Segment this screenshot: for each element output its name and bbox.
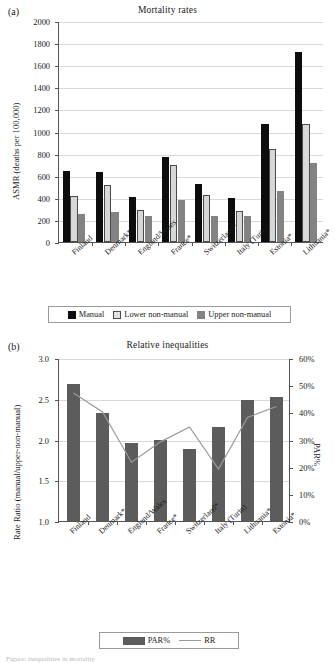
- legend-label-par-percent: PAR%: [148, 636, 171, 645]
- panel-b-y-tick-right: [289, 441, 293, 442]
- legend-swatch-rr-icon: [179, 640, 201, 641]
- panel-b-bar-par-percent: [125, 443, 139, 521]
- legend-label-lower-non-manual: Lower non-manual: [124, 310, 188, 319]
- panel-b-y-tick-right: [289, 413, 293, 414]
- panel-a-x-tick: [291, 242, 292, 246]
- panel-a-bar-lower: [269, 149, 276, 242]
- panel-b-y-tick-label: 1.0: [21, 518, 49, 527]
- panel-a-y-tick: [55, 44, 59, 45]
- panel-a-x-tick: [192, 242, 193, 246]
- panel-a-bar-lower: [302, 124, 309, 242]
- legend-swatch-par-percent-icon: [123, 637, 145, 645]
- panel-b-y-tick-label-right: 60%: [299, 355, 329, 364]
- panel-a-y-tick: [55, 66, 59, 67]
- panel-a-y-tick: [55, 110, 59, 111]
- panel-a-y-tick-label: 600: [16, 172, 50, 181]
- panel-a-bar-lower: [104, 185, 111, 242]
- panel-a-title: Mortality rates: [0, 5, 335, 15]
- panel-b-relative-inequalities: (b) Relative inequalities Rate Ratio (ma…: [0, 335, 335, 663]
- panel-a-y-tick: [55, 155, 59, 156]
- panel-b-y-tick-label: 2.0: [21, 436, 49, 445]
- panel-b-y-tick-label: 1.5: [21, 477, 49, 486]
- legend-swatch-upper-non-manual-icon: [197, 311, 205, 319]
- panel-a-gridline: [59, 88, 323, 89]
- panel-a-bar-lower: [70, 196, 77, 242]
- legend-swatch-manual-icon: [68, 311, 76, 319]
- legend-item-upper-non-manual: Upper non-manual: [197, 310, 271, 319]
- panel-a-y-tick: [55, 88, 59, 89]
- panel-b-y-tick-right: [289, 495, 293, 496]
- panel-b-y-tick: [55, 441, 59, 442]
- panel-b-gridline: [59, 359, 289, 360]
- panel-a-y-tick-label: 1600: [16, 62, 50, 71]
- panel-a-bar-manual: [96, 172, 103, 242]
- panel-a-gridline: [59, 110, 323, 111]
- panel-a-y-tick: [55, 177, 59, 178]
- panel-a-gridline: [59, 22, 323, 23]
- figure-caption: Figure: inequalities in mortality: [6, 655, 95, 663]
- panel-b-y-tick-right: [289, 386, 293, 387]
- panel-b-y-tick: [55, 400, 59, 401]
- panel-a-y-tick-label: 2000: [16, 18, 50, 27]
- panel-a-y-tick-label: 0: [16, 239, 50, 248]
- panel-b-y-tick: [55, 522, 59, 523]
- legend-item-rr: RR: [179, 636, 215, 645]
- panel-a-bar-upper: [277, 191, 284, 242]
- panel-a-y-tick-label: 1400: [16, 84, 50, 93]
- panel-a-gridline: [59, 66, 323, 67]
- legend-item-manual: Manual: [68, 310, 105, 319]
- panel-a-y-tick: [55, 243, 59, 244]
- panel-a-bar-manual: [63, 171, 70, 242]
- figure-container: (a) Mortality rates ASMR (deaths per 100…: [0, 0, 335, 663]
- panel-a-gridline: [59, 44, 323, 45]
- legend-item-lower-non-manual: Lower non-manual: [113, 310, 188, 319]
- panel-b-y-tick-right: [289, 468, 293, 469]
- panel-a-x-tick: [125, 242, 126, 246]
- panel-b-bar-par-percent: [96, 413, 110, 521]
- panel-a-mortality-rates: (a) Mortality rates ASMR (deaths per 100…: [0, 0, 335, 335]
- legend-label-manual: Manual: [79, 310, 105, 319]
- panel-b-y-tick-label: 3.0: [21, 355, 49, 364]
- panel-a-y-tick: [55, 199, 59, 200]
- panel-b-legend: PAR% RR: [99, 632, 239, 649]
- panel-a-y-tick-label: 1800: [16, 40, 50, 49]
- panel-a-bar-manual: [295, 52, 302, 242]
- panel-b-gridline: [59, 441, 289, 442]
- panel-a-y-tick-label: 1200: [16, 106, 50, 115]
- panel-b-gridline: [59, 400, 289, 401]
- panel-b-y-tick-label-right: 0%: [299, 518, 329, 527]
- panel-a-gridline: [59, 133, 323, 134]
- panel-a-x-tick: [258, 242, 259, 246]
- panel-a-y-tick-label: 800: [16, 150, 50, 159]
- panel-b-bar-par-percent: [183, 449, 197, 521]
- panel-a-x-tick: [158, 242, 159, 246]
- panel-b-y-tick: [55, 481, 59, 482]
- panel-b-y-tick-right: [289, 359, 293, 360]
- panel-a-plot-area: 0200400600800100012001400160018002000: [58, 22, 323, 243]
- panel-b-bar-par-percent: [67, 384, 81, 521]
- legend-swatch-lower-non-manual-icon: [113, 311, 121, 319]
- panel-b-y-tick: [55, 359, 59, 360]
- panel-a-y-tick: [55, 133, 59, 134]
- panel-b-plot-area: 1.01.52.02.53.00%10%20%30%40%50%60%: [58, 359, 290, 522]
- panel-a-bar-lower: [137, 210, 144, 242]
- panel-b-y-tick-label-right: 20%: [299, 463, 329, 472]
- legend-label-upper-non-manual: Upper non-manual: [208, 310, 271, 319]
- panel-a-y-tick: [55, 221, 59, 222]
- panel-a-y-tick-label: 400: [16, 194, 50, 203]
- legend-item-par-percent: PAR%: [123, 636, 171, 645]
- panel-a-y-tick-label: 1000: [16, 128, 50, 137]
- panel-a-x-tick: [225, 242, 226, 246]
- panel-a-x-tick: [92, 242, 93, 246]
- panel-b-title: Relative inequalities: [0, 340, 335, 350]
- panel-b-y-tick-label-right: 10%: [299, 490, 329, 499]
- panel-a-y-tick: [55, 22, 59, 23]
- panel-b-y-tick-label: 2.5: [21, 395, 49, 404]
- panel-b-y-tick-label-right: 50%: [299, 382, 329, 391]
- panel-b-gridline: [59, 481, 289, 482]
- panel-a-y-tick-label: 200: [16, 216, 50, 225]
- panel-b-bar-par-percent: [270, 397, 284, 521]
- panel-b-y-tick-label-right: 30%: [299, 436, 329, 445]
- panel-a-bar-upper: [310, 163, 317, 242]
- panel-b-y-tick-label-right: 40%: [299, 409, 329, 418]
